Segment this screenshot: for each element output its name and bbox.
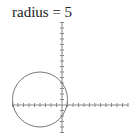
circle-curve	[13, 72, 68, 127]
plot-area	[0, 0, 140, 140]
